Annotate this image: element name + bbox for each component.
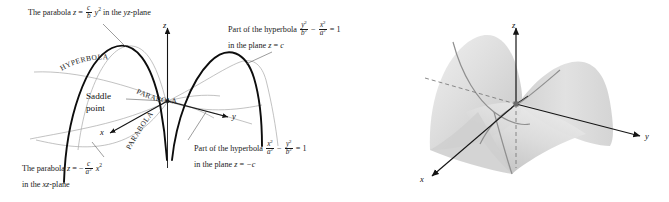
right-axis-label-x: x (420, 174, 424, 184)
right-origin-marker (514, 102, 519, 107)
right-axis-label-y: y (645, 131, 649, 141)
right-axis-label-z: z (512, 20, 515, 30)
right-figure-graphics (0, 0, 669, 202)
